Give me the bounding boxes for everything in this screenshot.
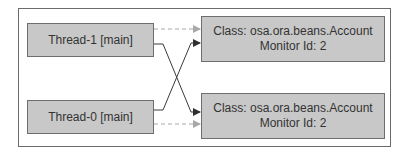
- monitor-node-bottom: Class: osa.ora.beans.Account Monitor Id:…: [201, 93, 385, 139]
- monitor-node-top: Class: osa.ora.beans.Account Monitor Id:…: [201, 16, 385, 62]
- monitor-top-class: Class: osa.ora.beans.Account: [213, 24, 372, 39]
- thread-0-label: Thread-0 [main]: [48, 110, 133, 125]
- thread-1-label: Thread-1 [main]: [48, 33, 133, 48]
- edge-thread0-waits-monitor-top: [154, 43, 200, 110]
- monitor-top-id: Monitor Id: 2: [260, 39, 327, 54]
- monitor-bottom-class: Class: osa.ora.beans.Account: [213, 101, 372, 116]
- monitor-bottom-id: Monitor Id: 2: [260, 116, 327, 131]
- edge-thread1-waits-monitor-bottom: [154, 44, 200, 112]
- thread-1-node: Thread-1 [main]: [27, 23, 154, 57]
- thread-0-node: Thread-0 [main]: [27, 100, 154, 134]
